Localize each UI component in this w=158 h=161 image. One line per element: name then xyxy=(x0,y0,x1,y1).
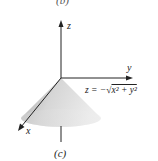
figure-caption-c: (c) xyxy=(54,148,66,159)
x-axis-label: x xyxy=(26,126,30,136)
y-axis-label: y xyxy=(127,63,131,73)
y-axis-arrow-icon xyxy=(126,76,133,81)
equation-prefix: z = −√ xyxy=(85,85,111,95)
y-axis xyxy=(61,76,133,81)
z-axis-label: z xyxy=(67,21,71,31)
z-axis-arrow-icon xyxy=(59,20,64,27)
equation-radicand: x² + y² xyxy=(111,85,136,95)
figure-caption-b: (b) xyxy=(56,0,69,6)
cone-diagram xyxy=(0,0,158,161)
surface-equation: z = −√x² + y² xyxy=(85,86,137,96)
